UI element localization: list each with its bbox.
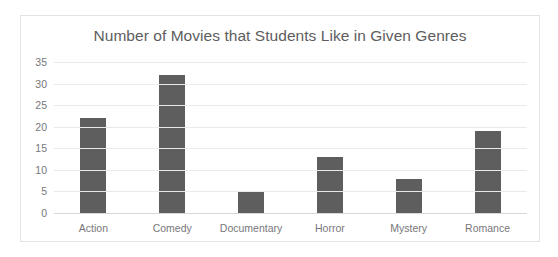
y-axis-tick-label: 35 [35, 56, 47, 68]
gridline [54, 170, 527, 171]
gridline [54, 213, 527, 214]
y-axis-tick-label: 15 [35, 142, 47, 154]
gridline [54, 62, 527, 63]
bar[interactable] [80, 118, 106, 213]
y-axis-tick-label: 5 [41, 185, 47, 197]
x-axis-tick-label: Action [79, 222, 108, 234]
y-axis-tick-label: 30 [35, 78, 47, 90]
x-axis-tick-label: Comedy [153, 222, 192, 234]
bar-group: Documentary [212, 62, 291, 213]
bar-group: Horror [291, 62, 370, 213]
bar-group: Action [54, 62, 133, 213]
gridline [54, 127, 527, 128]
bar[interactable] [238, 191, 264, 213]
y-axis-tick-label: 20 [35, 121, 47, 133]
y-axis-tick-label: 10 [35, 164, 47, 176]
gridline [54, 84, 527, 85]
x-axis-tick-label: Romance [465, 222, 510, 234]
plot-area: ActionComedyDocumentaryHorrorMysteryRoma… [54, 62, 527, 213]
clipped-header-text [34, 0, 334, 7]
bar-group: Comedy [133, 62, 212, 213]
x-axis-tick-label: Mystery [390, 222, 427, 234]
chart-frame: Number of Movies that Students Like in G… [20, 15, 540, 242]
gridline [54, 191, 527, 192]
bar[interactable] [475, 131, 501, 213]
bar[interactable] [317, 157, 343, 213]
x-axis-tick-label: Horror [315, 222, 345, 234]
chart-title: Number of Movies that Students Like in G… [21, 27, 539, 45]
gridline [54, 105, 527, 106]
y-axis-tick-label: 0 [41, 207, 47, 219]
bar[interactable] [396, 179, 422, 214]
gridline [54, 148, 527, 149]
bar-group: Romance [448, 62, 527, 213]
bars-layer: ActionComedyDocumentaryHorrorMysteryRoma… [54, 62, 527, 213]
x-axis-tick-label: Documentary [220, 222, 282, 234]
y-axis-tick-label: 25 [35, 99, 47, 111]
bar-group: Mystery [369, 62, 448, 213]
